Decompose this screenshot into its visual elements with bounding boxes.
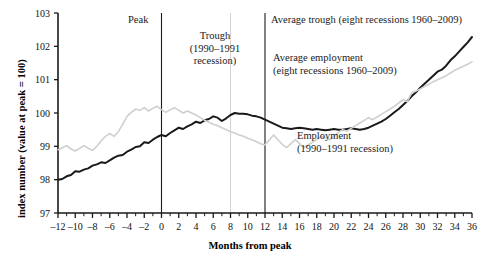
y-tick-label: 101 <box>35 74 50 85</box>
x-axis-title: Months from peak <box>0 240 500 251</box>
y-tick-label: 103 <box>35 8 50 19</box>
y-tick-label: 99 <box>40 141 50 152</box>
x-tick-label: 24 <box>364 221 374 232</box>
y-tick-label: 100 <box>35 108 50 119</box>
y-axis-title: index number (value at peak = 100) <box>16 59 27 218</box>
x-tick-label: 18 <box>312 221 322 232</box>
x-tick-label: 16 <box>295 221 305 232</box>
x-tick-label: 34 <box>450 221 460 232</box>
y-tick-label: 98 <box>40 174 50 185</box>
x-tick-label: 30 <box>415 221 425 232</box>
x-tick-label: –12 <box>50 221 66 232</box>
average-employment-label: Average employment (eight recessions 196… <box>273 52 397 77</box>
x-tick-label: 10 <box>243 221 253 232</box>
y-tick-label: 102 <box>35 41 50 52</box>
peak-label: Peak <box>128 14 148 27</box>
x-tick-label: 2 <box>176 221 181 232</box>
x-tick-label: 32 <box>433 221 443 232</box>
x-tick-label: –4 <box>121 221 132 232</box>
x-tick-label: 4 <box>194 221 199 232</box>
average-trough-label: Average trough (eight recessions 1960–20… <box>271 14 462 27</box>
x-tick-label: 0 <box>159 221 164 232</box>
x-tick-label: 20 <box>329 221 339 232</box>
trough-label: Trough (1990–1991 recession) <box>172 30 258 68</box>
x-tick-label: 8 <box>228 221 233 232</box>
y-tick-label: 97 <box>40 208 50 219</box>
y-tick-labels: 979899100101102103 <box>35 8 50 219</box>
x-tick-label: 22 <box>346 221 356 232</box>
x-axis <box>58 213 472 218</box>
x-tick-label: 14 <box>277 221 287 232</box>
x-tick-label: 36 <box>467 221 477 232</box>
x-tick-label: –6 <box>104 221 115 232</box>
x-tick-label: –8 <box>87 221 98 232</box>
x-tick-labels: –12–10–8–6–4–202468101214161820222426283… <box>50 221 478 232</box>
employment-label: Employment (1990–1991 recession) <box>297 130 393 155</box>
x-tick-label: 12 <box>260 221 270 232</box>
x-tick-label: –10 <box>67 221 83 232</box>
y-axis <box>54 13 58 213</box>
x-tick-label: –2 <box>138 221 149 232</box>
x-tick-label: 26 <box>381 221 391 232</box>
employment-index-chart: 979899100101102103 –12–10–8–6–4–20246810… <box>0 0 500 260</box>
x-tick-label: 6 <box>211 221 216 232</box>
x-tick-label: 28 <box>398 221 408 232</box>
